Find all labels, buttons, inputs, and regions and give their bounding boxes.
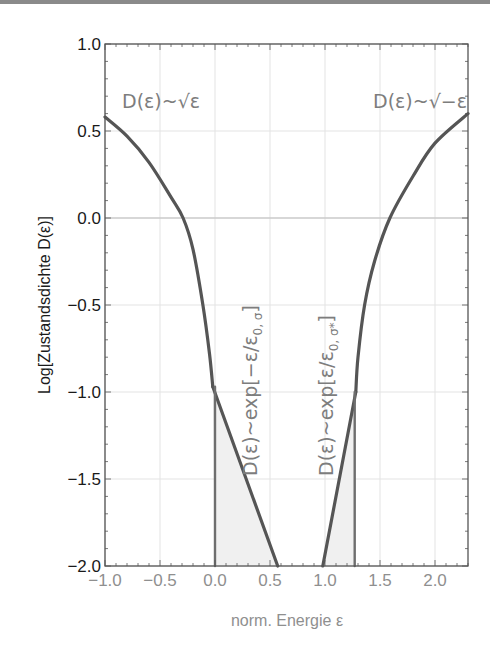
annotation-sqrt-left: D(ε)~√ε <box>122 90 200 112</box>
curves <box>105 114 468 566</box>
y-tick-label: −1.5 <box>67 470 101 489</box>
annotation-exp-left-main: D(ε)~exp[−ε/ε <box>239 335 261 476</box>
y-tick-labels: 1.00.50.0−0.5−1.0−1.5−2.0 <box>67 35 101 576</box>
y-tick-label: 1.0 <box>77 35 101 54</box>
y-axis-title: Log[Zustandsdichte D(ε)] <box>36 216 53 394</box>
svg-text:D(ε)~exp[−ε/ε0, σ]: D(ε)~exp[−ε/ε0, σ] <box>239 305 265 476</box>
annotation-exp-right-main: D(ε)~exp[ε/ε <box>315 351 337 476</box>
density-of-states-chart: 1.00.50.0−0.5−1.0−1.5−2.0 −1.0−0.50.00.5… <box>0 0 490 661</box>
y-tick-label: −1.0 <box>67 383 101 402</box>
x-tick-label: 1.0 <box>313 571 337 590</box>
annotation-exp-left-bracket: ] <box>239 305 261 312</box>
x-tick-label: −0.5 <box>143 571 177 590</box>
annotation-exp-right: D(ε)~exp[ε/ε0, σ*] <box>315 315 341 476</box>
annotation-exp-left: D(ε)~exp[−ε/ε0, σ] <box>239 305 265 476</box>
annotation-sqrt-right: D(ε)~√−ε <box>373 90 467 112</box>
curve-valence-band-edge-sqrt- <box>105 117 213 387</box>
x-tick-label: 0.0 <box>203 571 227 590</box>
y-tick-label: −0.5 <box>67 296 101 315</box>
grid-lines <box>105 44 468 566</box>
y-tick-label: 0.5 <box>77 122 101 141</box>
x-tick-label: 1.5 <box>368 571 392 590</box>
x-axis-title: norm. Energie ε <box>231 612 343 629</box>
curve-conduction-band-edge-sqrt- <box>356 114 468 392</box>
annotation-exp-right-sub: 0, σ* <box>327 322 341 351</box>
x-tick-labels: −1.0−0.50.00.51.01.52.0 <box>88 571 447 590</box>
x-tick-label: −1.0 <box>88 571 122 590</box>
annotation-exp-left-sub: 0, σ <box>251 312 265 335</box>
x-tick-label: 2.0 <box>423 571 447 590</box>
y-tick-label: 0.0 <box>77 209 101 228</box>
svg-text:D(ε)~exp[ε/ε0, σ*]: D(ε)~exp[ε/ε0, σ*] <box>315 315 341 476</box>
x-tick-label: 0.5 <box>258 571 282 590</box>
annotation-exp-right-bracket: ] <box>315 315 337 322</box>
